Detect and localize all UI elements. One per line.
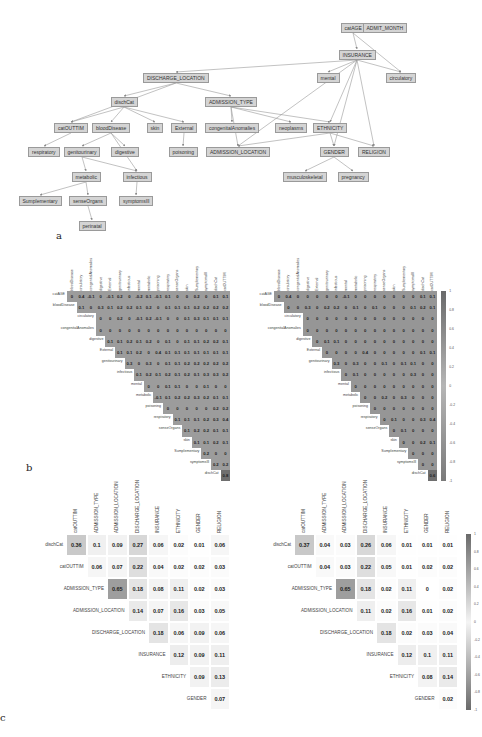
heatmap-cell: 0.16	[398, 601, 417, 621]
heatmap-cell: 0.3	[125, 358, 135, 369]
row-label: dischCat	[45, 542, 63, 547]
row-label: INSURANCE	[366, 652, 393, 657]
row-label: External	[307, 348, 320, 352]
heatmap-cell: 0.22	[129, 557, 148, 577]
heatmap-cell: 0	[360, 313, 370, 324]
heatmap-cell: 0.1	[163, 358, 173, 369]
heatmap-cell: 0.3	[351, 358, 361, 369]
graph-node-congenitalanomalies: congenitalAnomalies	[205, 123, 259, 133]
heatmap-cell: 0.06	[170, 623, 189, 643]
heatmap-cell: -0.2	[134, 291, 144, 302]
heatmap-cell: 0	[380, 414, 390, 425]
heatmap-cell: 0	[380, 403, 390, 414]
heatmap-cell: 0	[105, 313, 115, 324]
graph-node-admission-type: ADMISSION_TYPE	[205, 97, 257, 107]
heatmap-cell: 0.02	[398, 623, 417, 643]
row-label: catOUTTIM	[60, 564, 84, 569]
heatmap-cell: 0	[163, 325, 173, 336]
row-label: ADMISSION_LOCATION	[301, 608, 352, 613]
heatmap-c-left: catOUTTIMADMISSION_TYPEADMISSION_LOCATIO…	[0, 490, 240, 720]
heatmap-cell: 0	[408, 392, 418, 403]
heatmap-cell: 0.2	[221, 459, 231, 470]
heatmap-cell: 0	[173, 403, 183, 414]
col-label: INSURANCE	[383, 506, 388, 533]
row-label: catAGE	[260, 292, 272, 296]
heatmap-cell: 0	[428, 392, 438, 403]
heatmap-cell: 0	[428, 403, 438, 414]
heatmap-cell: 0.2	[211, 437, 221, 448]
row-label: metabolic	[343, 393, 358, 397]
row-label: metabolic	[136, 393, 151, 397]
heatmap-cell: 0.1	[399, 358, 409, 369]
heatmap-cell: 0	[360, 358, 370, 369]
col-label: External	[315, 278, 319, 291]
col-label: digestive	[306, 277, 310, 291]
heatmap-cell: 0	[389, 425, 399, 436]
col-label: infectious	[334, 276, 338, 291]
heatmap-cell: 0.3	[418, 414, 428, 425]
heatmap-cell: 0	[380, 325, 390, 336]
heatmap-cell: 0	[201, 403, 211, 414]
heatmap-cell: 0	[399, 369, 409, 380]
row-label: skin	[390, 438, 396, 442]
heatmap-cell: 0	[125, 313, 135, 324]
heatmap-cell: 0.01	[398, 535, 417, 555]
heatmap-cell: 0	[418, 369, 428, 380]
heatmap-cell: 0	[173, 325, 183, 336]
col-label: Sumplementary	[402, 266, 406, 291]
heatmap-cell: 0	[399, 414, 409, 425]
heatmap-cell: 0.1	[182, 425, 192, 436]
heatmap-cell: 0.2	[221, 358, 231, 369]
heatmap-cell: 0	[86, 302, 96, 313]
row-label: bloodDisease	[260, 303, 282, 307]
heatmap-cell: 0.2	[201, 358, 211, 369]
heatmap-cell: 0.2	[221, 403, 231, 414]
graph-node-pregnancy: pregnancy	[338, 172, 369, 182]
heatmap-cell: 0	[380, 313, 390, 324]
heatmap-cell: 0	[380, 381, 390, 392]
row-label: GENDER	[187, 696, 207, 701]
row-label: dischCat	[205, 471, 219, 475]
heatmap-cell: 0.1	[221, 425, 231, 436]
heatmap-cell: 0	[173, 336, 183, 347]
col-label: RELIGION	[217, 511, 222, 533]
heatmap-cell: 0.4	[77, 291, 87, 302]
col-label: catOUTTIM	[73, 509, 78, 533]
heatmap-cell: 0	[370, 392, 380, 403]
heatmap-cell: 0	[303, 325, 313, 336]
heatmap-cell: 0.2	[134, 347, 144, 358]
heatmap-cell: 0	[341, 347, 351, 358]
row-label: catAGE	[53, 292, 65, 296]
heatmap-cell: 0.1	[115, 347, 125, 358]
heatmap-cell: 0.2	[201, 414, 211, 425]
heatmap-cell: 0	[221, 325, 231, 336]
heatmap-cell: 0.2	[332, 302, 342, 313]
heatmap-cell: 0	[221, 448, 231, 459]
heatmap-cell: 0.2	[211, 459, 221, 470]
heatmap-cell: 0.65	[336, 579, 355, 599]
heatmap-cell: 0	[192, 403, 202, 414]
heatmap-cell: 0	[351, 336, 361, 347]
graph-node-ethnicity: ETHNICITY	[313, 123, 347, 133]
graph-node-senseorgans: senseOrgans	[69, 196, 107, 206]
row-label: circulatory	[284, 314, 300, 318]
graph-node-metabolic: metabolic	[72, 172, 101, 182]
heatmap-cell: 0.1	[418, 347, 428, 358]
heatmap-cell: 0.1	[211, 392, 221, 403]
graph-node-catouttim: catOUTTIM	[54, 123, 88, 133]
heatmap-cell: 0.02	[377, 601, 396, 621]
col-label: congenitalAnomalies	[296, 258, 300, 291]
heatmap-cell: 0	[380, 302, 390, 313]
heatmap-cell: 0	[418, 392, 428, 403]
col-label: bloodDisease	[70, 269, 74, 291]
colorbar-tick: -0.4	[474, 655, 480, 659]
panel-b-label: b	[26, 462, 32, 473]
heatmap-cell: 0.4	[221, 414, 231, 425]
heatmap-cell: 0	[399, 336, 409, 347]
heatmap-cell: 0.2	[418, 302, 428, 313]
heatmap-cell: 0.1	[428, 437, 438, 448]
heatmap-cell: 0.1	[211, 347, 221, 358]
heatmap-cell: 0.02	[190, 557, 209, 577]
graph-node-dischcat: dischCat	[111, 97, 138, 107]
heatmap-cell: 0.2	[163, 369, 173, 380]
